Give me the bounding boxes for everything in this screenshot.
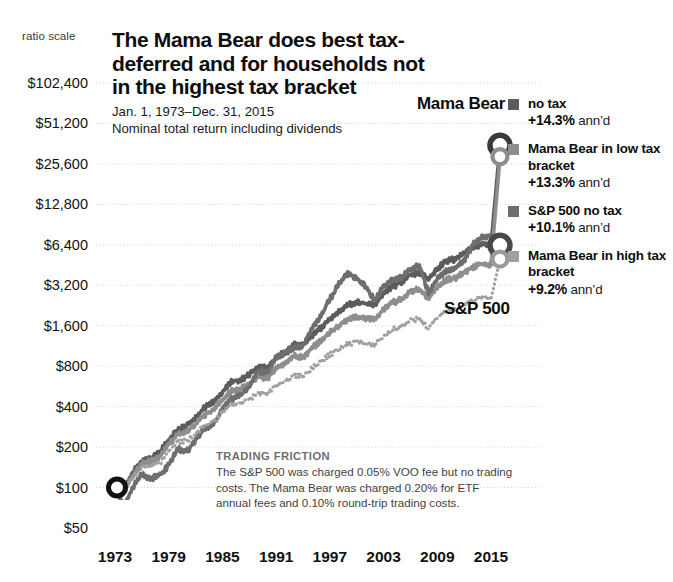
legend-color-swatch xyxy=(508,99,519,110)
legend-color-swatch xyxy=(508,206,519,217)
title-block: The Mama Bear does best tax-deferred and… xyxy=(112,28,432,138)
x-axis-tick-label: 1997 xyxy=(313,548,347,566)
x-axis-tick-label: 1991 xyxy=(259,548,293,566)
data-point-marker xyxy=(492,252,507,267)
footnote-body: The S&P 500 was charged 0.05% VOO fee bu… xyxy=(216,464,516,511)
legend-performance-value: +10.1% xyxy=(528,219,575,235)
legend-item[interactable]: Mama Bear in low tax bracket+13.3% ann’d xyxy=(508,141,668,192)
x-axis-tick-label: 2015 xyxy=(474,548,508,566)
legend-performance-suffix: ann’d xyxy=(575,220,610,235)
series-label-sp500: S&P 500 xyxy=(444,299,510,319)
legend-item[interactable]: Mama Bear in high tax bracket+9.2% ann’d xyxy=(508,248,668,299)
legend-series-performance: +10.1% ann’d xyxy=(528,219,668,237)
legend-series-performance: +13.3% ann’d xyxy=(528,174,668,192)
footnote: TRADING FRICTION The S&P 500 was charged… xyxy=(216,450,516,511)
x-axis: 19731979198519911997200320092015 xyxy=(0,540,673,570)
x-axis-tick-label: 2009 xyxy=(420,548,454,566)
legend-performance-value: +13.3% xyxy=(528,174,575,190)
legend-series-name: Mama Bear in high tax bracket xyxy=(528,248,668,281)
chart-subtitle: Nominal total return including dividends xyxy=(112,121,432,138)
legend-performance-suffix: ann’d xyxy=(567,282,602,297)
legend-color-swatch xyxy=(508,144,519,155)
legend: no tax+14.3% ann’dMama Bear in low tax b… xyxy=(508,96,668,310)
series-line xyxy=(115,157,500,492)
legend-performance-value: +9.2% xyxy=(528,281,567,297)
legend-series-name: Mama Bear in low tax bracket xyxy=(528,141,668,174)
legend-series-name: no tax xyxy=(528,96,668,112)
data-point-marker xyxy=(492,149,507,164)
legend-performance-suffix: ann’d xyxy=(575,113,610,128)
legend-item[interactable]: no tax+14.3% ann’d xyxy=(508,96,668,130)
legend-color-swatch xyxy=(508,251,519,262)
footnote-heading: TRADING FRICTION xyxy=(216,450,516,462)
x-axis-tick-label: 1979 xyxy=(151,548,185,566)
legend-series-performance: +9.2% ann’d xyxy=(528,281,668,299)
x-axis-tick-label: 1985 xyxy=(205,548,239,566)
chart-date-range: Jan. 1, 1973–Dec. 31, 2015 xyxy=(112,104,432,121)
page-title: The Mama Bear does best tax-deferred and… xyxy=(112,28,432,99)
legend-item[interactable]: S&P 500 no tax+10.1% ann’d xyxy=(508,203,668,237)
x-axis-tick-label: 1973 xyxy=(98,548,132,566)
gridlines xyxy=(96,83,540,500)
legend-performance-suffix: ann’d xyxy=(575,175,610,190)
y-axis-tick-label: $50 xyxy=(0,520,88,536)
legend-series-performance: +14.3% ann’d xyxy=(528,112,668,130)
data-point-marker xyxy=(109,479,126,496)
series-label-mama-bear: Mama Bear xyxy=(417,94,505,114)
legend-performance-value: +14.3% xyxy=(528,112,575,128)
legend-series-name: S&P 500 no tax xyxy=(528,203,668,219)
x-axis-tick-label: 2003 xyxy=(366,548,400,566)
